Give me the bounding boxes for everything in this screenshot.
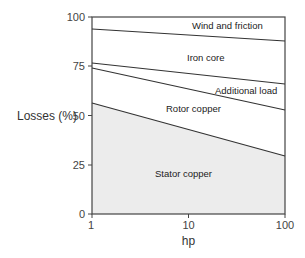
y-tick-100: 100 bbox=[67, 11, 85, 23]
y-tick-0: 0 bbox=[79, 208, 85, 220]
x-tick-10: 10 bbox=[182, 219, 194, 231]
label-wind-and-friction: Wind and friction bbox=[192, 20, 263, 31]
y-tick-25: 25 bbox=[73, 159, 85, 171]
losses-chart: 100 75 50 25 0 1 10 100 Losses (%) hp Wi… bbox=[0, 0, 305, 258]
x-axis-label: hp bbox=[182, 234, 196, 248]
label-rotor-copper: Rotor copper bbox=[166, 103, 221, 114]
label-additional-load: Additional load bbox=[215, 85, 277, 96]
y-axis-label: Losses (%) bbox=[17, 109, 77, 123]
x-tick-1: 1 bbox=[88, 219, 94, 231]
y-tick-75: 75 bbox=[73, 60, 85, 72]
boundary-iron-additional bbox=[92, 63, 285, 84]
label-stator-copper: Stator copper bbox=[155, 168, 212, 179]
x-tick-100: 100 bbox=[276, 219, 294, 231]
x-axis-ticks bbox=[92, 214, 285, 218]
stator-copper-area bbox=[92, 103, 285, 214]
label-iron-core: Iron core bbox=[187, 52, 225, 63]
